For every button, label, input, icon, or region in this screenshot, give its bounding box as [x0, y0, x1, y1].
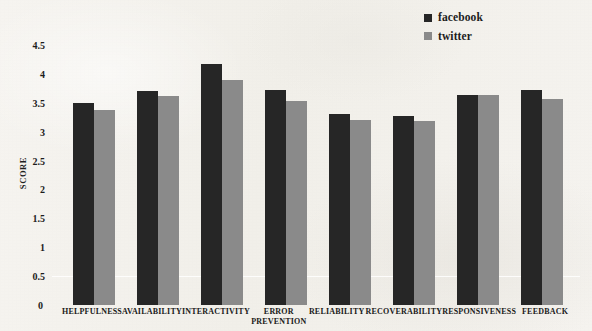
category-label-line: RELIABILITY	[308, 307, 366, 317]
category-label-recoverability: RECOVERABILITY	[366, 307, 443, 327]
category-label-line: PREVENTION	[250, 317, 308, 327]
bar-twitter-error-prevention	[286, 101, 307, 305]
category-label-availability: AVAILABILITY	[122, 307, 182, 327]
category-label-reliability: RELIABILITY	[308, 307, 366, 327]
y-tick-label: 4	[40, 68, 45, 79]
x-axis-categories: HELPFULNESSAVAILABILITYINTERACTIVITYERRO…	[52, 307, 580, 327]
bar-twitter-helpfulness	[94, 110, 115, 305]
bar-twitter-responsiveness	[478, 95, 499, 305]
legend-item-facebook: facebook	[424, 12, 483, 24]
category-label-responsiveness: RESPONSIVENESS	[442, 307, 516, 327]
bar-twitter-availability	[158, 96, 179, 305]
y-tick-label: 2	[40, 184, 45, 195]
y-tick-label: 1	[40, 242, 45, 253]
bar-twitter-recoverability	[414, 121, 435, 305]
bar-group	[62, 45, 126, 305]
bar-facebook-helpfulness	[73, 103, 94, 305]
y-tick-label: 3	[40, 126, 45, 137]
category-label-line: RESPONSIVENESS	[442, 307, 516, 317]
bar-twitter-reliability	[350, 120, 371, 305]
category-label-line: FEEDBACK	[516, 307, 574, 317]
y-tick-label-zero: 0	[38, 300, 43, 311]
bar-group	[190, 45, 254, 305]
chart-legend: facebook twitter	[424, 12, 483, 49]
category-label-line: HELPFULNESS	[62, 307, 122, 317]
category-label-helpfulness: HELPFULNESS	[62, 307, 122, 327]
bar-group	[510, 45, 574, 305]
bar-facebook-feedback	[521, 90, 542, 305]
bar-twitter-interactivity	[222, 80, 243, 305]
category-label-line: INTERACTIVITY	[182, 307, 250, 317]
legend-label-facebook: facebook	[438, 12, 483, 24]
bar-facebook-interactivity	[201, 64, 222, 306]
y-tick-label: 4.5	[33, 40, 46, 51]
category-label-line: RECOVERABILITY	[366, 307, 443, 317]
y-tick-label: 0.5	[33, 271, 46, 282]
bar-facebook-availability	[137, 91, 158, 305]
bar-facebook-error-prevention	[265, 90, 286, 305]
bar-facebook-responsiveness	[457, 95, 478, 305]
category-label-feedback: FEEDBACK	[516, 307, 574, 327]
bar-group	[318, 45, 382, 305]
bar-group	[382, 45, 446, 305]
legend-label-twitter: twitter	[438, 31, 472, 43]
bar-group	[126, 45, 190, 305]
bar-groups	[52, 45, 580, 305]
bar-group	[446, 45, 510, 305]
bar-group	[254, 45, 318, 305]
legend-swatch-facebook	[424, 14, 432, 22]
y-axis-title: SCORE	[18, 138, 28, 208]
bar-chart: facebook twitter SCORE 4.543.532.521.510…	[0, 0, 592, 331]
y-tick-label: 1.5	[33, 213, 46, 224]
category-label-line: ERROR	[250, 307, 308, 317]
bar-facebook-recoverability	[393, 116, 414, 305]
category-label-line: AVAILABILITY	[122, 307, 182, 317]
category-label-error-prevention: ERRORPREVENTION	[250, 307, 308, 327]
y-tick-label: 3.5	[33, 97, 46, 108]
bar-facebook-reliability	[329, 114, 350, 305]
category-label-interactivity: INTERACTIVITY	[182, 307, 250, 327]
y-tick-label: 2.5	[33, 155, 46, 166]
plot-area: 4.543.532.521.510.5	[52, 45, 580, 305]
legend-swatch-twitter	[424, 32, 432, 40]
legend-item-twitter: twitter	[424, 31, 483, 43]
bar-twitter-feedback	[542, 99, 563, 305]
